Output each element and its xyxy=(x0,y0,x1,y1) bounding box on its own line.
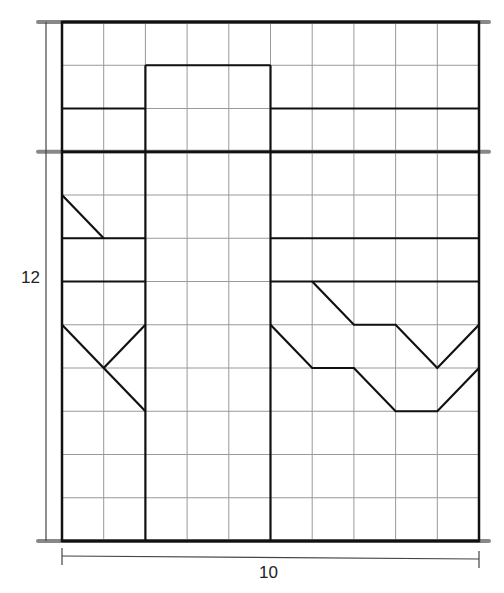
width-dimension-label: 10 xyxy=(259,563,278,583)
pattern-segments xyxy=(62,65,479,541)
width-dimension-line xyxy=(62,556,479,559)
height-dimension-label: 12 xyxy=(21,268,40,288)
left-x-diag-b xyxy=(104,325,146,368)
grid-diagram xyxy=(0,0,504,593)
left-diagonal-top xyxy=(62,195,104,238)
dimension-lines xyxy=(46,22,479,568)
